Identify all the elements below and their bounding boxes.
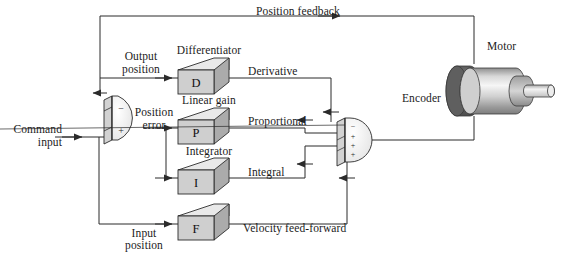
label-linear-gain: Linear gain	[174, 94, 244, 107]
label-differentiator: Differentiator	[168, 44, 250, 57]
label-output-position-line1: Output	[110, 50, 172, 63]
label-motor: Motor	[487, 40, 516, 53]
label-velocity-feed-forward: Velocity feed-forward	[243, 222, 346, 235]
label-position-error-line1: Position	[128, 106, 180, 119]
motor-assembly[interactable]	[446, 66, 555, 116]
block-letter-p: P	[178, 127, 214, 140]
wire-proportional	[229, 128, 337, 133]
label-command-input-line2: input	[0, 136, 62, 149]
label-input-position-line2: position	[112, 239, 176, 252]
wire-feedforward	[229, 158, 347, 224]
label-proportional: Proportional	[248, 115, 307, 128]
label-output-position-line2: position	[110, 63, 172, 76]
block-letter-d: D	[178, 77, 214, 90]
block-letter-f: F	[178, 223, 214, 236]
output-junction-sign-4: +	[348, 151, 358, 159]
label-encoder: Encoder	[402, 92, 441, 105]
label-integral: Integral	[248, 166, 285, 179]
error-junction-sign-plus: +	[115, 126, 127, 136]
output-junction-sign-1: −	[348, 123, 358, 131]
error-junction-sign-minus: −	[115, 104, 127, 114]
block-diagram: Position feedback Output position Comman…	[0, 0, 562, 253]
block-letter-i: I	[178, 177, 214, 190]
label-position-feedback: Position feedback	[233, 5, 363, 18]
label-integrator: Integrator	[174, 145, 244, 158]
label-derivative: Derivative	[248, 65, 298, 78]
output-junction-sign-2: +	[348, 133, 358, 141]
label-position-error-line2: error	[128, 119, 180, 132]
label-command-input-line1: Command	[0, 123, 62, 136]
output-junction-sign-3: +	[348, 142, 358, 150]
wire-drive-to-motor	[372, 116, 474, 140]
